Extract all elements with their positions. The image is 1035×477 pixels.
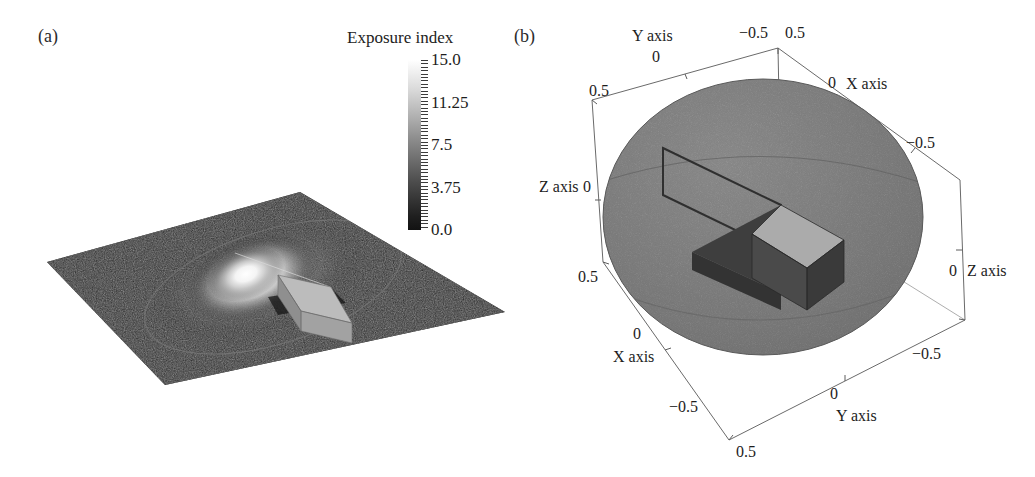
axis-tick-label: 0 [633,325,641,343]
colorbar-title: Exposure index [347,28,453,48]
axis-name-y-axis-bottom-right: Y axis [836,407,877,425]
axis-tick-label: 0 [583,178,591,196]
axis-tick-label: 0 [652,48,660,66]
colorbar-tick-label: 15.0 [431,50,461,70]
axis-tick-label: 0 [949,262,957,280]
axis-name-z-axis-right: Z axis [967,262,1007,280]
panel-a-plot [30,175,530,405]
axis-tick-label: 0.5 [589,82,609,100]
axis-name-z-axis-left: Z axis [539,178,579,196]
axis-tick-label: −0.5 [739,24,768,42]
axis-tick-label: −0.5 [912,345,941,363]
panel-b-label: (b) [514,26,535,47]
axis-tick-label: 0.5 [578,268,598,286]
panel-b-plot [545,20,1035,470]
axis-tick-label: 0.5 [736,443,756,461]
axis-tick-label: 0 [828,74,836,92]
colorbar-tick-label: 11.25 [431,93,469,113]
axis-tick-label: −0.5 [669,398,698,416]
axis-name-x-axis-bottom-left: X axis [613,348,654,366]
axis-tick-label: −0.5 [906,134,935,152]
colorbar-tick-label: 7.5 [431,135,452,155]
figure-root: (a) (b) Exposure index 15.011.257.53.750… [0,0,1035,477]
axis-name-y-axis-top-left: Y axis [632,27,673,45]
axis-tick-label: 0.5 [785,24,805,42]
panel-a-label: (a) [38,26,58,47]
axis-name-x-axis-top-right: X axis [846,75,887,93]
axis-tick-label: 0 [830,385,838,403]
